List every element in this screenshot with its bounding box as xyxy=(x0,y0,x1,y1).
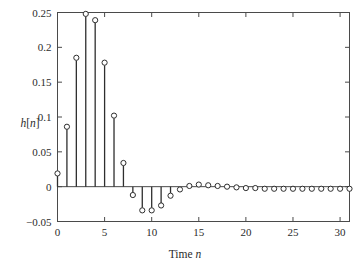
y-axis-label: h[n] xyxy=(20,117,39,129)
figure-container: 051015202530 −0.0500.050.10.150.20.25 Ti… xyxy=(0,0,364,267)
y-tick-label: 0.25 xyxy=(32,7,52,19)
y-tick-label: 0.2 xyxy=(38,41,52,53)
x-tick-label: 15 xyxy=(193,226,205,238)
x-tick-label: 10 xyxy=(146,226,158,238)
y-tick-label: 0.05 xyxy=(32,146,52,158)
x-tick-label: 25 xyxy=(287,226,299,238)
x-tick-label: 0 xyxy=(55,226,61,238)
x-tick-label: 30 xyxy=(335,226,347,238)
stem-plot: 051015202530 −0.0500.050.10.150.20.25 Ti… xyxy=(0,0,364,267)
y-tick-label: −0.05 xyxy=(26,216,52,228)
y-tick-label: 0.1 xyxy=(38,111,52,123)
y-tick-label: 0.15 xyxy=(32,76,52,88)
x-axis-label: Time n xyxy=(169,248,202,260)
x-tick-label: 5 xyxy=(102,226,108,238)
x-tick-label: 20 xyxy=(240,226,252,238)
y-tick-label: 0 xyxy=(46,181,52,193)
